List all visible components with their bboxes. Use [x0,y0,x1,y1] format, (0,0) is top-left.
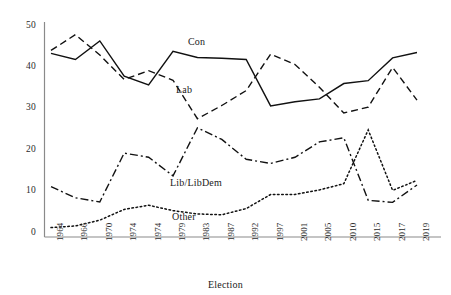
x-tick-13: 2015 [372,223,382,241]
con-series-label: Con [188,36,205,47]
x-tick-10: 2001 [299,223,309,241]
y-tick-0: 0 [14,227,36,237]
x-tick-7: 1987 [226,223,236,241]
other-series-label: Other [172,211,196,222]
lib-libdem-series-label: Lib/LibDem [170,177,222,188]
election-vote-share-line-chart [0,0,451,295]
x-tick-11: 2005 [323,223,333,241]
x-tick-8: 1992 [250,223,260,241]
chart-figure: 50 40 30 20 10 0 19641966197019741974197… [0,0,451,295]
y-tick-50: 50 [14,20,36,30]
y-tick-10: 10 [14,185,36,195]
lab-series-label: Lab [176,84,192,95]
y-tick-20: 20 [14,144,36,154]
x-tick-14: 2017 [397,223,407,241]
x-tick-3: 1974 [128,223,138,241]
x-tick-0: 1964 [55,223,65,241]
x-tick-12: 2010 [348,223,358,241]
x-tick-5: 1979 [177,223,187,241]
x-tick-6: 1983 [201,223,211,241]
x-tick-1: 1966 [79,223,89,241]
x-axis-title: Election [208,279,243,290]
x-tick-15: 2019 [421,223,431,241]
x-tick-2: 1970 [104,223,114,241]
y-tick-40: 40 [14,61,36,71]
x-tick-4: 1974 [153,223,163,241]
chart-background [0,0,451,295]
x-tick-9: 1997 [275,223,285,241]
y-tick-30: 30 [14,102,36,112]
